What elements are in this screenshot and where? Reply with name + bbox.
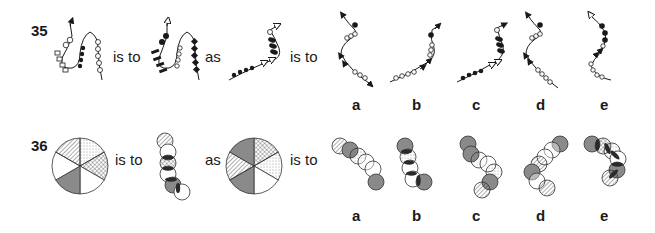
q35-figure-b bbox=[147, 18, 212, 83]
q36-option-b-label[interactable]: b bbox=[412, 207, 421, 224]
q36-option-a-label[interactable]: a bbox=[352, 207, 360, 224]
q36-figure-a-pie bbox=[50, 136, 110, 196]
q35-option-a-figure[interactable] bbox=[335, 12, 380, 90]
q36-figure-c-pie bbox=[224, 136, 284, 196]
q36-option-e-label[interactable]: e bbox=[600, 207, 608, 224]
q36-option-c-label[interactable]: c bbox=[472, 207, 480, 224]
q36-connector-is-to-1: is to bbox=[115, 151, 143, 168]
question-number-36: 36 bbox=[31, 137, 48, 154]
q36-option-b-figure[interactable] bbox=[395, 136, 445, 196]
q35-figure-a bbox=[50, 18, 115, 83]
q35-figure-c bbox=[227, 20, 287, 82]
q35-option-c-label[interactable]: c bbox=[472, 96, 480, 113]
q35-option-b-figure[interactable] bbox=[388, 20, 443, 84]
q35-option-e-figure[interactable] bbox=[585, 12, 630, 82]
question-number-35: 35 bbox=[31, 22, 48, 39]
q36-connector-as: as bbox=[205, 151, 221, 168]
q35-connector-is-to-2: is to bbox=[290, 48, 318, 65]
q35-option-b-label[interactable]: b bbox=[412, 96, 421, 113]
q35-connector-as: as bbox=[205, 48, 221, 65]
q36-connector-is-to-2: is to bbox=[290, 151, 318, 168]
q36-option-e-figure[interactable] bbox=[582, 134, 642, 200]
q36-option-a-figure[interactable] bbox=[330, 136, 390, 198]
q36-option-d-label[interactable]: d bbox=[536, 207, 545, 224]
q35-connector-is-to-1: is to bbox=[113, 48, 141, 65]
q35-option-d-figure[interactable] bbox=[520, 12, 565, 90]
q36-figure-b-chain bbox=[152, 131, 202, 203]
q35-option-c-figure[interactable] bbox=[455, 18, 510, 84]
q35-option-e-label[interactable]: e bbox=[600, 96, 608, 113]
q36-option-c-figure[interactable] bbox=[458, 134, 513, 202]
q36-option-d-figure[interactable] bbox=[520, 134, 575, 200]
q35-option-d-label[interactable]: d bbox=[536, 96, 545, 113]
q35-option-a-label[interactable]: a bbox=[352, 96, 360, 113]
